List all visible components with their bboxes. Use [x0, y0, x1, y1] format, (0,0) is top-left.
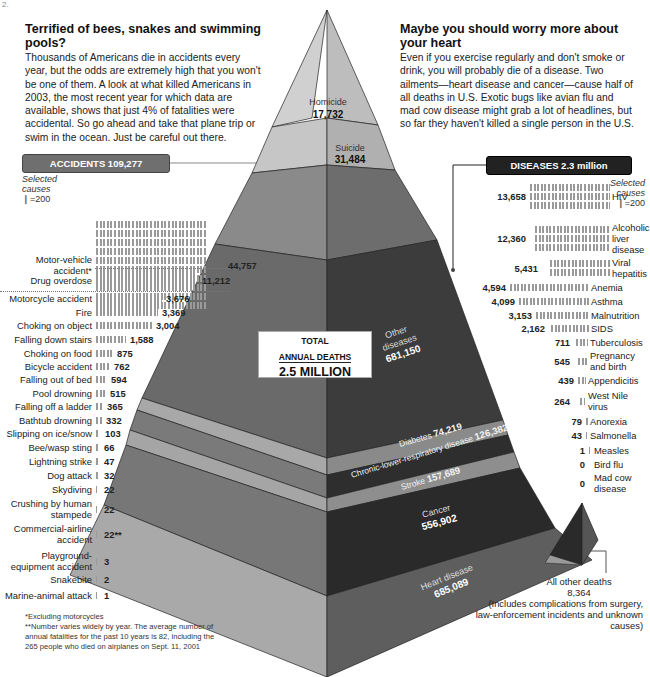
accident-row: Slipping on ice/snow 103 [0, 428, 121, 439]
disease-row: 264 West Nile virus [470, 390, 628, 412]
disease-row: 0 Mad cow disease [470, 472, 634, 494]
accident-label: Snakebite [0, 574, 92, 585]
disease-row: 711 Tuberculosis [470, 337, 643, 348]
disease-label: HIV [612, 191, 628, 202]
accident-value: 22 [104, 484, 114, 495]
total-value: 2.5 MILLION [259, 364, 371, 380]
disease-label: Anorexia [590, 416, 627, 427]
disease-value: 43 [470, 430, 582, 441]
accident-row: Skydiving 22 [0, 484, 114, 495]
disease-value: 5,431 [478, 263, 538, 274]
disease-label: Appendicitis [588, 375, 639, 386]
disease-value: 439 [470, 375, 574, 386]
disease-label: Tuberculosis [590, 337, 643, 348]
disease-row: 12,360 Alcoholic liver disease [478, 222, 650, 255]
accident-label: Pool drowning [0, 388, 92, 399]
accident-row: Marine-animal attack 1 [0, 590, 109, 601]
disease-label: Anemia [591, 282, 623, 293]
disease-value: 4,594 [470, 282, 506, 293]
footnote-1: *Excluding motorcycles [25, 612, 225, 622]
disease-row: 3,153 Malnutrition [470, 310, 639, 321]
accident-label: Bicycle accident [0, 361, 92, 372]
accident-row: Crushing by human stampede 22 [0, 498, 114, 520]
accident-row: Bee/wasp sting 66 [0, 442, 114, 453]
accident-row: Playground-equipment accident 3 [0, 550, 109, 572]
disease-label: Pregnancy and birth [590, 350, 634, 372]
accident-label: Falling out of bed [0, 374, 92, 385]
accident-label: Choking on food [0, 348, 92, 359]
accident-row: Pool drowning 515 [0, 388, 126, 399]
accident-label: Drug overdose [0, 275, 92, 286]
total-deaths-box: TOTAL ANNUAL DEATHS 2.5 MILLION [258, 331, 372, 378]
accidents-header: ACCIDENTS 109,277 [22, 154, 170, 173]
disease-row: 439 Appendicitis [470, 375, 639, 386]
total-line1: TOTAL [259, 336, 371, 346]
disease-row: 79 Anorexia [470, 416, 627, 427]
accident-value: 22** [104, 529, 122, 540]
accident-value: 365 [107, 401, 123, 412]
accident-value: 22 [104, 504, 114, 515]
disease-value: 0 [470, 478, 585, 489]
accident-row: Lightning strike 47 [0, 456, 114, 467]
disease-value: 3,153 [470, 310, 532, 321]
accident-row: Snakebite 2 [0, 574, 109, 585]
disease-label: Measles [594, 445, 629, 456]
accident-label: Fire [0, 307, 92, 318]
diseases-header: DISEASES 2.3 million [486, 156, 632, 175]
accident-row: Commercial-airline accident 22** [0, 523, 122, 545]
all-other-title: All other deaths [515, 576, 643, 587]
disease-label: Bird flu [594, 459, 623, 470]
accident-value: 594 [111, 374, 127, 385]
disease-row: 2,162 SIDS [470, 323, 613, 334]
accident-row: Falling down stairs 1,588 [0, 334, 153, 345]
accident-row: Drug overdose 11,212 [0, 271, 230, 289]
accident-value: 44,757 [228, 260, 257, 271]
accident-row: Bathtub drowning 332 [0, 415, 122, 426]
accident-row: Fire 3,369 [0, 307, 185, 318]
disease-label: Malnutrition [591, 310, 639, 321]
accident-label: Lightning strike [0, 456, 92, 467]
accident-value: 103 [105, 428, 121, 439]
disease-value: 13,658 [478, 191, 526, 202]
accident-label: Skydiving [0, 484, 92, 495]
accident-value: 515 [110, 388, 126, 399]
disease-value: 711 [470, 337, 570, 348]
disease-row: 43 Salmonella [470, 430, 636, 441]
disease-label: Salmonella [590, 430, 636, 441]
accident-label: Motorcycle accident [0, 293, 92, 304]
disease-label: SIDS [591, 323, 613, 334]
accident-value: 47 [104, 456, 114, 467]
accident-value: 875 [117, 348, 133, 359]
disease-value: 1 [470, 445, 585, 456]
accident-label: Dog attack [0, 470, 92, 481]
accident-label: Crushing by human stampede [0, 498, 92, 520]
accident-value: 32 [104, 470, 114, 481]
accident-row: Dog attack 32 [0, 470, 114, 481]
accident-label: Marine-animal attack [0, 590, 92, 601]
accident-value: 11,212 [202, 275, 230, 286]
accident-value: 3 [104, 556, 109, 567]
disease-value: 264 [470, 396, 570, 407]
accident-row: Choking on object 3,004 [0, 320, 179, 331]
accident-row: Falling out of bed 594 [0, 374, 127, 385]
accident-label: Bee/wasp sting [0, 442, 92, 453]
disease-label: Asthma [591, 296, 623, 307]
accident-value: 2 [104, 574, 109, 585]
accident-row: Falling off a ladder 365 [0, 401, 123, 412]
all-other-description: (Includes complications from surgery, la… [475, 598, 643, 631]
accident-value: 3,369 [162, 307, 185, 318]
accident-label: Choking on object [0, 320, 92, 331]
disease-value: 0 [470, 459, 585, 470]
accident-value: 66 [104, 442, 114, 453]
accident-row: Choking on food 875 [0, 348, 133, 359]
all-other-deaths-note: All other deaths 8,364 (Includes complic… [475, 576, 643, 631]
accident-value: 1,588 [130, 334, 153, 345]
disease-row: 4,099 Asthma [470, 296, 623, 307]
suicide-label: Suicide [335, 143, 365, 153]
disease-row: 545 Pregnancy and birth [470, 350, 634, 372]
homicide-label: Homicide [309, 97, 347, 107]
accident-label: Falling off a ladder [0, 401, 92, 412]
disease-row: 13,658 HIV [478, 183, 628, 210]
accident-label: Commercial-airline accident [0, 523, 92, 545]
suicide-value: 31,484 [335, 154, 366, 165]
